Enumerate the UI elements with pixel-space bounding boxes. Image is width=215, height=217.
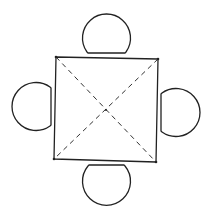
chair-bottom [83, 165, 131, 205]
center-dot [105, 109, 107, 111]
corner-dot [55, 56, 58, 59]
corner-dot [53, 158, 56, 161]
corner-dot [157, 58, 160, 61]
chair-top [83, 14, 131, 53]
chair-right [161, 89, 200, 137]
table-seating-diagram: Square table with four chairs [0, 0, 215, 217]
chair-left [12, 83, 51, 131]
diagram-svg [0, 0, 215, 217]
table [53, 56, 160, 164]
corner-dot [155, 161, 158, 164]
